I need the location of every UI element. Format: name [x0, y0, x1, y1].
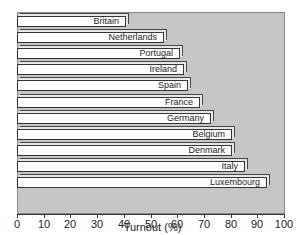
bar-label: Portugal [139, 48, 173, 59]
bar-denmark: Denmark [17, 145, 232, 156]
bar-ireland: Ireland [17, 64, 184, 75]
bar-label: Netherlands [108, 32, 157, 43]
bar-germany: Germany [17, 113, 211, 124]
bar-label: Spain [158, 80, 181, 91]
bar-label: Luxembourg [210, 177, 260, 188]
bar-label: Denmark [188, 145, 225, 156]
bar-portugal: Portugal [17, 48, 180, 59]
bar-label: Italy [221, 161, 238, 172]
bar-label: Belgium [192, 129, 225, 140]
bar-spain: Spain [17, 80, 188, 91]
bar-label: Germany [167, 113, 204, 124]
bar-label: Britain [93, 16, 119, 27]
bar-netherlands: Netherlands [17, 32, 164, 43]
bar-belgium: Belgium [17, 129, 232, 140]
bar-label: Ireland [149, 64, 177, 75]
x-axis-label: Turnout (%) [0, 221, 305, 233]
bar-france: France [17, 97, 200, 108]
bar-britain: Britain [17, 16, 126, 27]
bar-italy: Italy [17, 161, 245, 172]
bar-label: France [165, 97, 193, 108]
bar-luxembourg: Luxembourg [17, 177, 267, 188]
